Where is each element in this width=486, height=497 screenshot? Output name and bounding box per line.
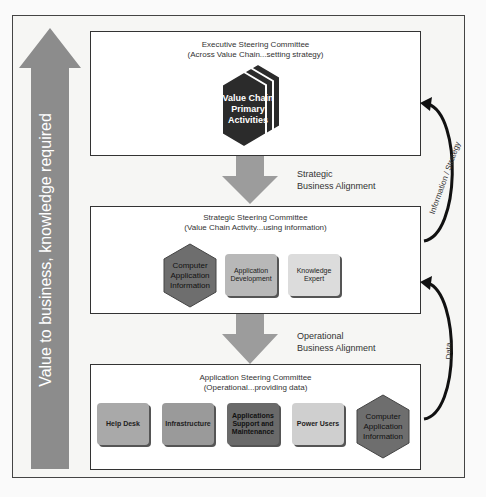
strategic-item-application-development: Application Development: [225, 254, 277, 296]
application-item-infrastructure: Infrastructure: [162, 403, 214, 445]
data-label: Data: [444, 343, 453, 360]
value-arrow-label: Value to business, knowledge required: [37, 113, 55, 387]
strategic-item-computer-application-information: Computer Application Information: [162, 258, 218, 294]
strategic-item-knowledge-expert: Knowledge Expert: [288, 254, 340, 296]
application-item-help-desk: Help Desk: [97, 403, 149, 445]
operational-alignment-arrow-icon: [222, 314, 282, 366]
strategic-alignment-label: Strategic Business Alignment: [297, 168, 376, 192]
strategic-subtitle: (Value Chain Activity...using informatio…: [91, 223, 420, 233]
application-item-power-users: Power Users: [292, 403, 344, 445]
application-subtitle: (Operational...providing data): [91, 383, 420, 393]
application-item-support-maintenance: Applications Support and Maintenance: [227, 403, 279, 445]
application-title: Application Steering Committee: [91, 373, 420, 383]
strategic-alignment-arrow-icon: [222, 156, 282, 206]
application-item-computer-application-information: Computer Application Information: [355, 409, 411, 445]
operational-alignment-label: Operational Business Alignment: [297, 330, 376, 354]
strategic-title: Strategic Steering Committee: [91, 213, 420, 223]
executive-subtitle: (Across Value Chain...setting strategy): [91, 50, 420, 60]
executive-title: Executive Steering Committee: [91, 40, 420, 50]
value-chain-label: Value Chain Primary Activities: [218, 84, 278, 134]
